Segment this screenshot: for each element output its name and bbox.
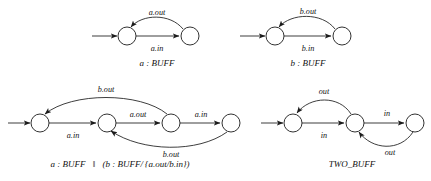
caption-two-buff: TWO_BUFF [329, 159, 376, 169]
state-node-2 [181, 27, 199, 45]
state-node-1 [31, 114, 49, 132]
edge-label-out-upper: out [319, 87, 330, 96]
caption-left-part: a : BUFF [50, 159, 85, 169]
edge-label-a-in: a.in [151, 44, 164, 53]
transition-b-out [279, 16, 335, 29]
caption-a-par-b: a : BUFF ‖ (b : BUFF/ {a.out/b.in}) [50, 159, 189, 169]
state-node-1 [284, 114, 302, 132]
state-node-1 [266, 27, 284, 45]
edge-label-in-2: in [384, 109, 390, 118]
caption-b-buff: b : BUFF [291, 58, 326, 68]
transition-out-upper [297, 100, 351, 114]
state-node-4 [222, 114, 240, 132]
edge-label-b-out-upper: b.out [98, 85, 115, 94]
edge-label-a-in-1: a.in [67, 131, 80, 140]
diagram-b-buff: b.out b.in b : BUFF [240, 7, 351, 68]
edge-label-in-1: in [321, 131, 327, 140]
caption-a-buff: a : BUFF [140, 58, 175, 68]
state-node-1 [118, 27, 136, 45]
edge-label-out-lower: out [385, 148, 396, 157]
edge-label-b-out: b.out [300, 7, 317, 16]
edge-label-a-out: a.out [130, 110, 147, 119]
edge-label-b-in: b.in [302, 44, 315, 53]
figure-container: a.out a.in a : BUFF b.out b.in b : BUFF [0, 0, 431, 181]
edge-label-b-out-lower: b.out [163, 150, 180, 159]
diagram-a-buff: a.out a.in a : BUFF [92, 8, 199, 68]
caption-parallel-operator: ‖ [93, 159, 96, 169]
figure-svg: a.out a.in a : BUFF b.out b.in b : BUFF [0, 0, 431, 181]
diagram-a-buff-par-b-buff: b.out a.in a.out a.in b.out a : BUFF ‖ (… [8, 85, 240, 169]
state-node-2 [333, 27, 351, 45]
transition-out-lower [359, 132, 413, 146]
diagram-two-buff: out in in out TWO_BUFF [261, 87, 424, 169]
edge-label-a-in-2: a.in [195, 110, 208, 119]
transition-b-out-upper [45, 98, 167, 115]
caption-right-part: (b : BUFF/ {a.out/b.in}) [103, 159, 190, 169]
state-node-2 [98, 114, 116, 132]
state-node-3 [162, 114, 180, 132]
edge-label-a-out: a.out [149, 8, 166, 17]
transition-a-out [131, 17, 183, 29]
state-node-2 [346, 114, 364, 132]
state-node-3 [406, 114, 424, 132]
transition-b-out-lower [111, 131, 227, 147]
